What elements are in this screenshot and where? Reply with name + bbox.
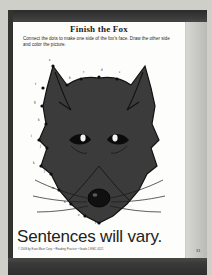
dot-label-m: m bbox=[52, 186, 54, 190]
dot-label-c: c bbox=[83, 70, 84, 74]
dot-label-g: g bbox=[34, 100, 36, 104]
page-gutter-strip bbox=[185, 22, 207, 258]
dot-label-i: i bbox=[31, 134, 32, 138]
dot-label-p: p bbox=[95, 220, 97, 224]
nose-highlight bbox=[93, 193, 98, 197]
page-title: Finish the Fox bbox=[13, 24, 185, 34]
dot-label-d: d bbox=[101, 68, 103, 72]
dot-label-f: f bbox=[35, 82, 36, 86]
dot-label-a: a bbox=[49, 58, 50, 62]
scanned-page-background: Finish the Fox Connect the dots to make … bbox=[0, 0, 212, 275]
fox-head-svg bbox=[13, 48, 185, 233]
dot-label-e: e bbox=[119, 70, 120, 74]
worksheet-page: Finish the Fox Connect the dots to make … bbox=[13, 22, 185, 258]
dot-label-b: b bbox=[69, 76, 71, 80]
scanner-band-bottom bbox=[8, 258, 207, 275]
right-eye-highlight bbox=[112, 135, 117, 142]
fox-nose bbox=[88, 189, 110, 207]
dot-label-n: n bbox=[64, 200, 66, 204]
page-number: 31 bbox=[196, 248, 212, 253]
copyright-line: © 2009 by Evan-Moor Corp. • Reading Prac… bbox=[18, 248, 148, 251]
fox-illustration: a b c d e f g h i j k l m n o p bbox=[13, 48, 185, 233]
instructions-text: Connect the dots to make one side of the… bbox=[23, 36, 178, 48]
answer-key-overlay: Sentences will vary. bbox=[17, 227, 185, 247]
dot-label-j: j bbox=[40, 144, 41, 148]
dot-label-k: k bbox=[33, 161, 35, 165]
dot-label-o: o bbox=[78, 213, 80, 217]
left-eye-highlight bbox=[80, 135, 85, 142]
dot-label-h: h bbox=[38, 118, 40, 122]
dot-label-l: l bbox=[44, 170, 45, 174]
